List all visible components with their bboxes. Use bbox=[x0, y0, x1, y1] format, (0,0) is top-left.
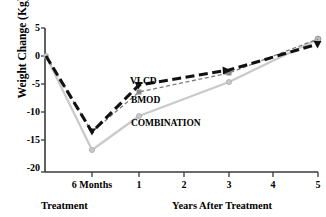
x-axis-tick-label-1: 1 bbox=[129, 180, 149, 190]
series-line-combination bbox=[46, 39, 318, 150]
series-annotation-bmod: BMOD bbox=[131, 95, 160, 105]
y-axis-tick-label-neg15: -15 bbox=[18, 135, 40, 145]
caption-treatment: Treatment bbox=[41, 200, 88, 211]
y-axis-tick-label-neg20: -20 bbox=[18, 163, 40, 173]
y-axis-tick-label-5: 5 bbox=[18, 23, 40, 33]
series-annotation-vlcd: VLCD bbox=[130, 76, 157, 86]
weight-change-line-chart: Weight Change (Kg) 5 0 -5 -10 -15 -20 bbox=[0, 0, 326, 217]
x-axis-tick-label-2: 2 bbox=[174, 180, 194, 190]
y-axis-tick-label-neg10: -10 bbox=[18, 107, 40, 117]
x-axis-tick-label-3: 3 bbox=[219, 180, 239, 190]
caption-years-after-treatment: Years After Treatment bbox=[172, 200, 272, 211]
x-axis-tick-label-5: 5 bbox=[308, 180, 326, 190]
y-axis-tick-label-0: 0 bbox=[18, 51, 40, 61]
x-axis-tick-label-4: 4 bbox=[263, 180, 283, 190]
y-axis-tick-label-neg5: -5 bbox=[18, 79, 40, 89]
x-axis-tick-label-6-months: 6 Months bbox=[57, 180, 127, 190]
series-annotation-combination: COMBINATION bbox=[131, 118, 200, 128]
